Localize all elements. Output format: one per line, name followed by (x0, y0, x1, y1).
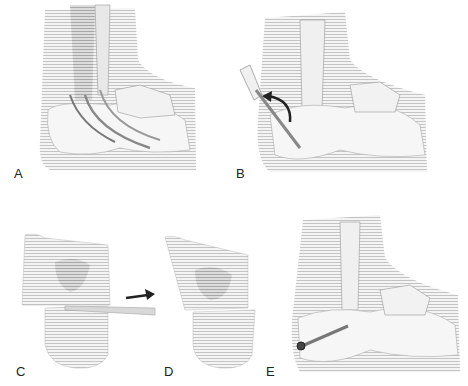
panel-c-illustration (22, 234, 155, 368)
panel-label-e: E (266, 364, 275, 379)
panel-label-d: D (164, 364, 173, 379)
panel-label-a: A (14, 166, 23, 181)
panel-label-c: C (16, 364, 25, 379)
panel-d-illustration (165, 236, 255, 368)
figure-canvas (0, 0, 468, 386)
panel-a-illustration (40, 5, 196, 170)
panel-label-b: B (236, 166, 245, 181)
panel-b-illustration (240, 12, 427, 172)
panel-e-illustration (292, 215, 460, 372)
